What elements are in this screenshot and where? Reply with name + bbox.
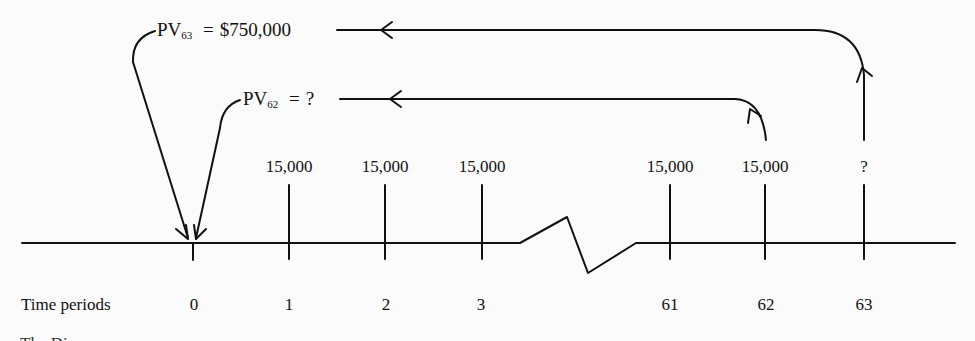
pv-prefix: PV	[157, 19, 181, 40]
period-label-1: 1	[285, 296, 294, 313]
period-label-62: 62	[758, 296, 775, 313]
pv63-flow-arrow	[337, 30, 864, 140]
period-label-61: 61	[662, 296, 679, 313]
period-label-63: 63	[856, 296, 873, 313]
arrowhead-down-icon	[194, 225, 206, 239]
caption-fragment: The Di...	[20, 334, 80, 341]
cash-flow-3: 15,000	[459, 158, 506, 175]
timeline-diagram: PV63 =$750,000 PV62 =? 15,000 15,000 15,…	[0, 0, 975, 341]
pv63-to-zero-arrow	[133, 31, 188, 238]
period-label-0: 0	[190, 296, 199, 313]
period-label-2: 2	[382, 296, 391, 313]
time-axis-line	[22, 217, 955, 273]
cash-flow-1: 15,000	[266, 158, 313, 175]
pv63-value: $750,000	[220, 19, 291, 40]
cash-flow-61: 15,000	[647, 158, 694, 175]
cash-flow-2: 15,000	[362, 158, 409, 175]
cash-flow-63: ?	[860, 158, 868, 175]
pv62-flow-arrow	[340, 99, 766, 140]
pv63-label: PV63 =$750,000	[157, 20, 291, 41]
pv62-to-zero-arrow	[196, 100, 240, 238]
axis-label: Time periods	[21, 296, 111, 313]
cash-flow-62: 15,000	[742, 158, 789, 175]
period-label-3: 3	[477, 296, 486, 313]
pv-prefix: PV	[243, 88, 267, 109]
pv-subscript: 63	[181, 29, 192, 41]
pv62-label: PV62 =?	[243, 89, 314, 110]
equals-sign: =	[203, 19, 214, 40]
arrowhead-down-icon	[176, 225, 188, 239]
pv62-value: ?	[306, 88, 314, 109]
pv-subscript: 62	[267, 98, 278, 110]
equals-sign: =	[289, 88, 300, 109]
